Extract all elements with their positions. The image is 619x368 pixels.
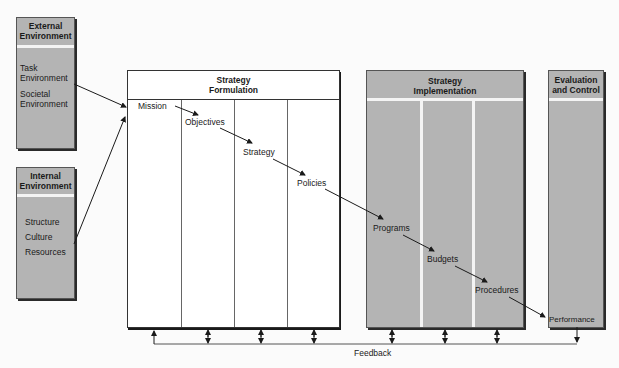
connector-arrows [0,0,619,368]
arrow-external-to-formulation [74,84,126,107]
arrow-internal-to-formulation [74,117,125,244]
